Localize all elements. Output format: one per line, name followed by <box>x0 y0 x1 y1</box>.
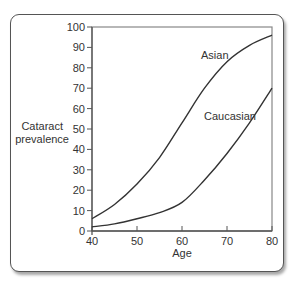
series-label-asian: Asian <box>201 49 229 61</box>
x-tick-label: 50 <box>131 235 143 247</box>
y-tick-label: 50 <box>73 123 85 135</box>
plot-area <box>92 27 272 235</box>
y-axis: 0102030405060708090100 <box>67 21 92 237</box>
line-chart: 0102030405060708090100 4050607080 Catara… <box>0 0 293 284</box>
series-line-caucasian <box>92 88 272 227</box>
y-tick-label: 80 <box>73 62 85 74</box>
y-axis-title-line1: Cataract <box>21 120 63 132</box>
series-label-caucasian: Caucasian <box>204 110 256 122</box>
x-axis-title: Age <box>172 247 192 259</box>
y-tick-label: 100 <box>67 21 85 33</box>
y-tick-label: 70 <box>73 82 85 94</box>
y-tick-label: 30 <box>73 164 85 176</box>
series-lines <box>92 35 272 227</box>
x-tick-label: 80 <box>266 235 278 247</box>
y-tick-label: 60 <box>73 103 85 115</box>
y-axis-title-line2: prevalence <box>15 133 69 145</box>
series-line-asian <box>92 35 272 219</box>
x-tick-label: 70 <box>221 235 233 247</box>
y-tick-label: 90 <box>73 41 85 53</box>
y-tick-label: 40 <box>73 143 85 155</box>
x-tick-label: 40 <box>86 235 98 247</box>
y-tick-label: 0 <box>79 225 85 237</box>
x-axis: 4050607080 <box>86 226 278 247</box>
y-tick-label: 20 <box>73 184 85 196</box>
y-tick-label: 10 <box>73 205 85 217</box>
x-tick-label: 60 <box>176 235 188 247</box>
